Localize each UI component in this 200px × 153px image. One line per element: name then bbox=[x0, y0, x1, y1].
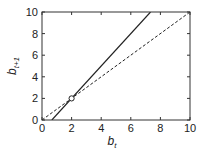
x-tick-label: 8 bbox=[157, 122, 163, 134]
plot-area: 02468100246810 bbox=[26, 6, 196, 134]
chart: 02468100246810 bt bt+1 bbox=[0, 0, 200, 153]
y-tick-label: 0 bbox=[32, 114, 38, 126]
x-tick-label: 4 bbox=[98, 122, 104, 134]
map-line bbox=[52, 12, 151, 120]
identity-line bbox=[42, 12, 190, 120]
x-tick-label: 2 bbox=[69, 122, 75, 134]
y-tick-label: 6 bbox=[32, 49, 38, 61]
y-tick-label: 8 bbox=[32, 28, 38, 40]
x-tick-label: 6 bbox=[128, 122, 134, 134]
y-tick-label: 4 bbox=[32, 71, 38, 83]
x-axis-label: bt bbox=[108, 134, 118, 150]
x-tick-label: 0 bbox=[39, 122, 45, 134]
y-tick-label: 2 bbox=[32, 92, 38, 104]
y-axis-label: bt+1 bbox=[5, 57, 21, 75]
y-tick-label: 10 bbox=[26, 6, 38, 18]
fixed-point-marker bbox=[69, 96, 74, 101]
x-tick-label: 10 bbox=[184, 122, 196, 134]
